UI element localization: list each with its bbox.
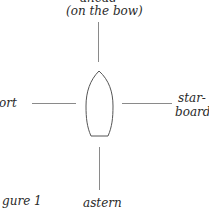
figure-caption: gure 1	[2, 195, 42, 207]
on-the-bow-label: (on the bow)	[66, 5, 143, 17]
astern-label: astern	[83, 197, 122, 209]
port-label: ort	[0, 97, 17, 109]
starboard-label-line1: star-	[178, 92, 206, 104]
starboard-label-line2: board	[175, 106, 209, 118]
boat-hull-icon	[86, 71, 113, 136]
